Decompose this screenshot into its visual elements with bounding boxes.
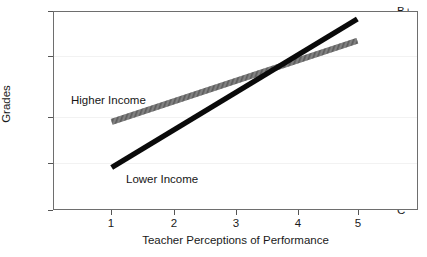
plot-area: Higher Income Lower Income <box>53 11 418 210</box>
gridline-b <box>54 56 417 57</box>
series-line-higher-income-base <box>112 41 358 122</box>
x-tick-label-3: 3 <box>221 217 251 229</box>
series-line-higher-income <box>112 41 358 122</box>
y-tick-mark-c <box>48 210 53 211</box>
x-tick-label-4: 4 <box>283 217 313 229</box>
x-tick-mark-4 <box>298 210 299 215</box>
series-label-higher-income: Higher Income <box>71 94 146 106</box>
x-tick-mark-1 <box>111 210 112 215</box>
x-tick-label-2: 2 <box>159 217 189 229</box>
series-line-lower-income <box>112 19 358 167</box>
series-label-lower-income: Lower Income <box>126 173 198 185</box>
x-tick-label-1: 1 <box>96 217 126 229</box>
chart-screenshot: Grades B+ B B- C+ C <box>0 0 427 257</box>
gridline-b-minus <box>54 117 417 118</box>
x-tick-mark-2 <box>174 210 175 215</box>
x-tick-mark-5 <box>358 210 359 215</box>
x-tick-label-5: 5 <box>343 217 373 229</box>
gridline-c-plus <box>54 163 417 164</box>
x-tick-mark-3 <box>236 210 237 215</box>
series-layer <box>54 12 417 209</box>
y-axis-title: Grades <box>0 74 12 134</box>
x-axis-title: Teacher Perceptions of Performance <box>53 234 418 246</box>
